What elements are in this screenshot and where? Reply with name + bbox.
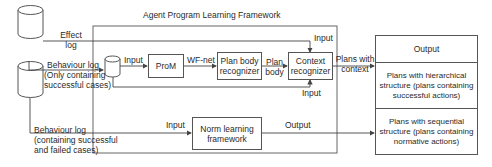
wf-net-label: WF-net [187, 55, 215, 65]
output-row-hierarchical: Plans with hierarchical structure (plans… [376, 63, 477, 109]
behaviour-log-all-label: Behaviour log (containing successful and… [34, 125, 118, 155]
norm-learning-framework-box: Norm learning framework [192, 117, 262, 150]
plan-body-label: Plan body [262, 57, 287, 77]
context-input-bottom-label: Input [302, 88, 321, 98]
context-input-top-label: Input [314, 33, 333, 43]
plans-with-context-label: Plans with context [335, 54, 375, 74]
effect-log-label: Effect log [56, 30, 86, 50]
log-to-context-bottom-connector [113, 77, 310, 87]
framework-title: Agent Program Learning Framework [143, 10, 280, 20]
input-to-prom-label: Input [124, 55, 143, 65]
norm-output-label: Output [285, 120, 311, 130]
effect-log-database-icon [18, 6, 43, 39]
prom-box: ProM [148, 54, 184, 78]
behaviour-log-success-label: Behaviour log (Only containing successfu… [44, 60, 102, 90]
output-row-sequential: Plans with sequential structure (plans c… [376, 109, 477, 155]
plan-body-recognizer-box: Plan body recognizer [217, 52, 262, 80]
output-table-header: Output [376, 36, 477, 63]
behaviour-log-success-database-icon [18, 62, 43, 98]
intermediate-log-database-icon [105, 56, 120, 77]
context-recognizer-box: Context recognizer [288, 52, 333, 80]
output-table: Output Plans with hierarchical structure… [375, 35, 478, 155]
norm-input-label: Input [166, 120, 185, 130]
